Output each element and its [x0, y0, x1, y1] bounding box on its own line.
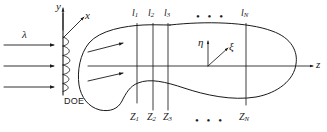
- distance-label-z3-subscript: 3: [169, 115, 172, 122]
- optics-diagram-figure: λ y x DOE z η ξ l1 l2 l3 lN • • • Z1 Z2 …: [0, 0, 327, 132]
- distance-label-ellipsis: • • •: [195, 115, 225, 126]
- distance-label-z2-subscript: 2: [153, 115, 156, 122]
- plane-label-l2-subscript: 2: [151, 11, 154, 18]
- plane-label-ellipsis: • • •: [196, 11, 226, 22]
- doe-grating-profile: [63, 37, 70, 92]
- doe-label: DOE: [64, 97, 84, 106]
- distance-label-z3: Z3: [163, 112, 172, 123]
- plane-section-lines: [137, 24, 246, 111]
- eta-axis-label: η: [198, 37, 203, 48]
- plane-label-l1-subscript: 1: [135, 11, 138, 18]
- plane-label-l3-subscript: 3: [167, 11, 170, 18]
- xi-axis-label: ξ: [229, 41, 234, 52]
- x-axis-label: x: [85, 10, 90, 21]
- plane-label-l1: l1: [132, 8, 138, 19]
- plane-label-l3: l3: [164, 8, 170, 19]
- z-axis-label: z: [316, 59, 320, 70]
- y-axis-label: y: [56, 1, 61, 12]
- plane-label-lN: lN: [241, 8, 248, 19]
- distance-label-z2: Z2: [147, 112, 156, 123]
- wavelength-label: λ: [22, 29, 27, 40]
- incident-ray-group: [4, 45, 54, 87]
- distance-label-zN-subscript: N: [245, 115, 250, 122]
- distance-label-z1: Z1: [130, 112, 139, 123]
- xi-axis-line: [208, 48, 228, 66]
- volume-outline: [78, 23, 296, 111]
- diverging-ray-group: [88, 43, 123, 81]
- plane-label-l2: l2: [148, 8, 154, 19]
- plane-label-lN-subscript: N: [244, 11, 249, 18]
- x-axis-line: [63, 17, 84, 38]
- distance-label-z1-subscript: 1: [136, 115, 139, 122]
- distance-label-zN: ZN: [239, 112, 249, 123]
